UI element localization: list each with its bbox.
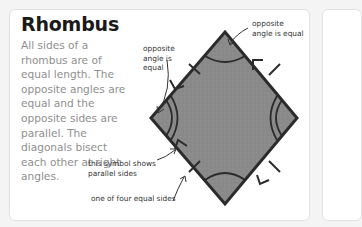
label-parallel-symbol: this symbol shows parallel sides — [88, 159, 156, 178]
label-equal-side: one of four equal sides — [91, 194, 176, 204]
next-card-edge — [322, 9, 362, 221]
leader-parallel — [157, 150, 175, 160]
label-opposite-angle-top: opposite angle is equal — [252, 19, 304, 38]
label-opposite-angle-left: opposite angle is equal — [143, 44, 175, 73]
